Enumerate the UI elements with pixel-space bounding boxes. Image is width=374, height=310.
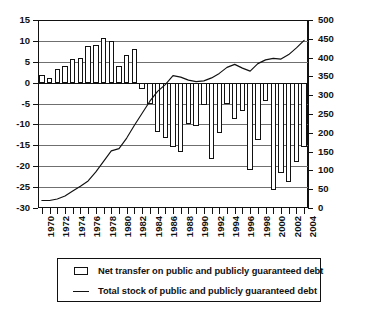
left-axis-tick [33,20,38,21]
x-axis-tick [266,208,267,214]
left-axis-tick [33,166,38,167]
legend-label: Net transfer on public and publicly guar… [98,266,323,276]
legend-line-icon [64,291,98,292]
left-axis-tick-label: -20 [2,161,30,171]
right-axis-tick-label: 500 [318,15,352,25]
bar [232,83,238,119]
x-axis-tick [212,208,213,214]
x-axis-tick [104,208,105,214]
x-axis-tick [304,208,305,214]
right-axis-tick [308,76,313,77]
right-axis-tick [308,133,313,134]
x-axis-tick [158,208,159,214]
left-axis-tick-label: -10 [2,119,30,129]
bar [224,83,230,105]
x-axis-tick-label: 1986 [169,216,179,237]
x-axis-tick [50,208,51,214]
x-axis-tick-label: 1984 [154,216,164,237]
plot-area [38,20,308,208]
x-axis-tick-label: 1972 [61,216,71,237]
x-axis-tick-label: 1980 [123,216,133,237]
x-axis-tick [57,208,58,214]
x-axis-tick [165,208,166,214]
left-axis-spine [38,20,39,208]
legend-item-net-transfer: Net transfer on public and publicly guar… [58,261,320,281]
bar [271,83,277,190]
left-axis-tick [33,104,38,105]
x-axis-tick [96,208,97,214]
bar [101,38,107,83]
bar [247,83,253,170]
right-axis-tick [308,152,313,153]
x-axis-tick [281,208,282,214]
x-axis-tick [42,208,43,214]
x-axis-tick-label: 1994 [231,216,241,237]
x-axis-tick [235,208,236,214]
bar [201,83,207,105]
right-axis-tick [308,114,313,115]
gridline [38,41,308,42]
left-axis-tick-label: 10 [2,36,30,46]
x-axis-tick [65,208,66,214]
right-axis-tick-label: 0 [318,203,352,213]
bar [217,83,223,133]
x-axis-tick [142,208,143,214]
left-axis-tick [33,83,38,84]
x-axis-tick [242,208,243,214]
x-axis-tick [73,208,74,214]
left-axis-tick [33,124,38,125]
bar [255,83,261,141]
x-axis-tick-label: 2000 [277,216,287,237]
right-axis-tick-label: 350 [318,71,352,81]
bar [163,83,169,138]
x-axis-tick-label: 1970 [46,216,56,237]
x-axis-tick [296,208,297,214]
bar [186,83,192,124]
x-axis-tick [289,208,290,214]
left-axis-tick-label: -5 [2,99,30,109]
right-axis-tick-label: 300 [318,90,352,100]
bar [170,83,176,148]
gridline [38,166,308,167]
x-axis-tick-label: 1988 [185,216,195,237]
bar [286,83,292,182]
bar [47,78,53,83]
legend: Net transfer on public and publicly guar… [57,258,321,302]
x-axis-tick [258,208,259,214]
gridline [38,187,308,188]
bar [139,83,145,90]
x-axis-tick [134,208,135,214]
chart-root: 151050-5-10-15-20-25-30 5004504003503002… [0,0,374,310]
right-axis-tick-label: 250 [318,109,352,119]
right-axis-tick [308,189,313,190]
left-axis-tick-label: 0 [2,78,30,88]
x-axis-tick [219,208,220,214]
right-axis-tick [308,208,313,209]
right-axis-tick-label: 100 [318,165,352,175]
bar [116,66,122,83]
left-axis-tick [33,41,38,42]
left-axis-tick [33,145,38,146]
bar [132,49,138,83]
x-axis-tick [119,208,120,214]
right-axis-tick [308,170,313,171]
x-axis-tick-label: 2004 [308,216,318,237]
x-axis-tick [196,208,197,214]
bar [209,83,215,159]
bar [294,83,300,162]
left-axis-tick [33,62,38,63]
bar [78,58,84,82]
x-axis-tick [204,208,205,214]
legend-label: Total stock of public and publicly guara… [98,286,317,296]
x-axis-tick [250,208,251,214]
bar [109,41,115,82]
x-axis-tick [80,208,81,214]
x-axis-tick-label: 1992 [216,216,226,237]
bar [178,83,184,153]
x-axis-tick-label: 1996 [246,216,256,237]
left-axis-tick-label: 5 [2,57,30,67]
right-axis-tick [308,95,313,96]
bar [240,83,246,112]
right-axis-tick [308,20,313,21]
x-axis-tick [88,208,89,214]
